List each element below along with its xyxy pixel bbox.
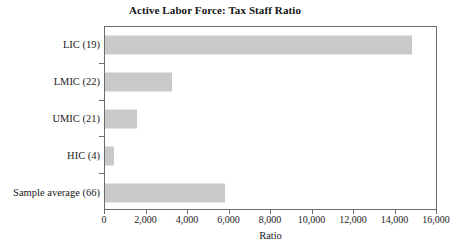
y-axis-tick-mark [99,63,104,64]
bar-row [105,174,436,211]
x-axis-tick-label: 12,000 [339,214,367,225]
y-axis-tick-mark [99,136,104,137]
bar-row [105,27,436,64]
y-axis-tick-label: UMIC (21) [0,113,100,124]
bar[interactable] [105,36,412,55]
chart-title: Active Labor Force: Tax Staff Ratio [0,4,430,16]
x-axis-tick-label: 8,000 [259,214,282,225]
bar[interactable] [105,183,225,202]
chart-figure: Active Labor Force: Tax Staff Ratio LIC … [0,0,464,250]
y-axis-tick-mark [99,173,104,174]
bar-row [105,101,436,138]
x-axis-tick-label: 14,000 [381,214,409,225]
plot-area [104,26,437,210]
x-axis-tick-label: 10,000 [298,214,326,225]
bar[interactable] [105,146,114,165]
x-axis-tick-label: 2,000 [134,214,157,225]
x-axis-tick-label: 16,000 [422,214,450,225]
x-axis-title: Ratio [104,230,437,241]
bar[interactable] [105,109,137,128]
x-axis-tick-label: 0 [102,214,107,225]
bar-row [105,64,436,101]
x-axis-tick-label: 6,000 [217,214,240,225]
x-axis-tick-label: 4,000 [176,214,199,225]
y-axis-tick-label: Sample average (66) [0,186,100,197]
y-axis-tick-label: LIC (19) [0,39,100,50]
bar-row [105,137,436,174]
y-axis-tick-label: LMIC (22) [0,76,100,87]
y-axis-tick-mark [99,100,104,101]
bar[interactable] [105,73,172,92]
y-axis-tick-label: HIC (4) [0,149,100,160]
